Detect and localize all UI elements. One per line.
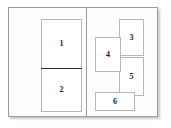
region-label-2: 2: [60, 86, 64, 94]
region-box-2[interactable]: 2: [41, 69, 82, 112]
region-label-4: 4: [106, 51, 110, 59]
panel-divider: [86, 8, 87, 116]
region-label-3: 3: [130, 34, 134, 42]
region-label-6: 6: [113, 98, 117, 106]
region-label-1: 1: [60, 40, 64, 48]
region-box-5[interactable]: 5: [119, 57, 144, 96]
region-box-6[interactable]: 6: [95, 92, 135, 111]
diagram-canvas: 1 2 3 5 4 6: [0, 0, 171, 128]
region-label-5: 5: [130, 73, 134, 81]
region-box-3[interactable]: 3: [119, 19, 144, 56]
region-box-4[interactable]: 4: [95, 37, 121, 72]
window-frame: 1 2 3 5 4 6: [8, 7, 158, 117]
region-box-1[interactable]: 1: [41, 19, 82, 68]
